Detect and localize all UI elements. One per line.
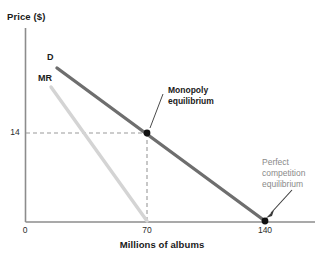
demand-curve: [57, 68, 265, 221]
perfect-competition-label-line2: competition: [262, 169, 305, 179]
monopoly-equilibrium-point: [144, 130, 151, 137]
mr-curve-label: MR: [38, 73, 52, 83]
x-tick-label-70: 70: [137, 226, 157, 236]
monopoly-leader-line: [150, 94, 163, 128]
x-tick-label-140: 140: [252, 226, 278, 236]
perfect-competition-label-line1: Perfect: [262, 158, 289, 168]
perfect-competition-label-line3: equilibrium: [262, 180, 303, 190]
x-axis-title: Millions of albums: [0, 240, 324, 251]
chart-canvas: [0, 0, 324, 262]
economics-chart: Price ($) Millions of albums D MR 14 0 7…: [0, 0, 324, 262]
x-tick-label-0: 0: [18, 226, 32, 236]
monopoly-equilibrium-label-line2: equilibrium: [168, 97, 214, 107]
demand-curve-label: D: [47, 52, 54, 62]
perfect-competition-arrow: [266, 190, 292, 218]
perfect-competition-equilibrium-point: [262, 218, 269, 225]
mr-curve: [51, 87, 147, 221]
y-axis-title: Price ($): [7, 12, 45, 23]
monopoly-equilibrium-label-line1: Monopoly: [168, 86, 208, 96]
y-tick-label-14: 14: [8, 128, 22, 138]
